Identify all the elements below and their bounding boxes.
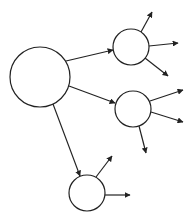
arrow-edge-child-1-5 xyxy=(145,58,168,76)
node-child-1 xyxy=(113,29,149,65)
node-child-2 xyxy=(115,91,151,127)
arrow-edge-child-1-3 xyxy=(141,12,152,32)
node-root xyxy=(10,47,70,107)
arrow-edge-child-2-6 xyxy=(150,90,183,101)
node-child-3 xyxy=(69,175,105,211)
tree-diagram xyxy=(0,0,194,221)
arrow-edge-root-1 xyxy=(69,86,115,103)
arrow-edge-child-2-8 xyxy=(139,126,146,153)
arrow-edge-child-3-9 xyxy=(96,156,112,177)
arrow-edge-child-2-7 xyxy=(151,112,183,122)
arrow-edge-root-0 xyxy=(66,50,113,61)
arrow-edge-root-2 xyxy=(53,104,80,176)
nodes-group xyxy=(10,29,151,211)
arrow-edge-child-1-4 xyxy=(149,43,178,46)
